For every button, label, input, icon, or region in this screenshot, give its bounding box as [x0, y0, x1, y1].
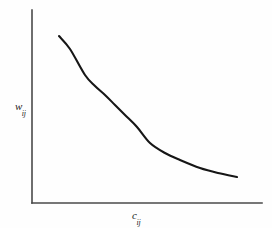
- decay-curve-path: [59, 36, 237, 177]
- figure-container: wij cij: [0, 0, 272, 228]
- x-axis-label-subscript: ij: [136, 218, 140, 227]
- data-series-group: [59, 36, 237, 177]
- chart-canvas: [0, 0, 272, 228]
- y-axis-label-subscript: ij: [22, 109, 26, 118]
- y-axis-label: wij: [15, 97, 26, 116]
- x-axis-label: cij: [132, 206, 141, 225]
